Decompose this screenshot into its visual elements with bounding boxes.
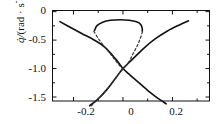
series-ascending-solid-branch: [90, 21, 189, 106]
series-upper-solid-arc: [95, 20, 143, 32]
series-lower-left-dashed-branch: [91, 69, 123, 106]
series-right-dashed-branch: [123, 32, 143, 70]
series-layer: [60, 20, 189, 106]
chart-figure: q̇/(rad · s-1) 0 -0.5 -1.0 -1.5 -0.2 0 0…: [0, 0, 218, 124]
plot-frame: [53, 11, 210, 102]
plot-canvas: [0, 0, 218, 124]
series-descending-solid-branch: [60, 22, 166, 104]
tick-marks: [53, 11, 210, 102]
